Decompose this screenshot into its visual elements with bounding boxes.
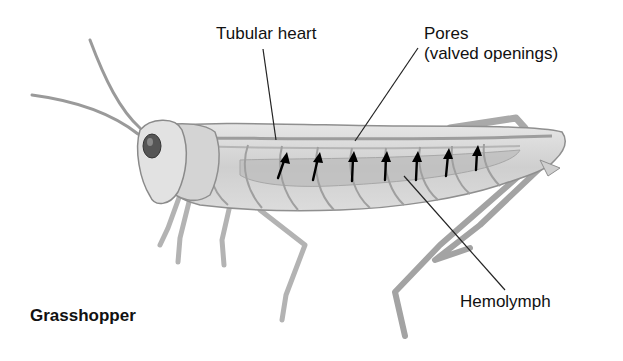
grasshopper-circulatory-diagram: Tubular heart Pores (valved openings) He… — [0, 0, 623, 361]
label-hemolymph: Hemolymph — [460, 292, 551, 312]
label-tubular-heart: Tubular heart — [216, 24, 316, 44]
label-pores-detail: (valved openings) — [424, 44, 558, 64]
antennae — [32, 40, 140, 134]
figure-title: Grasshopper — [30, 306, 136, 326]
label-pores: Pores — [424, 24, 468, 44]
head — [138, 120, 187, 203]
compound-eye — [143, 134, 161, 158]
legs — [160, 195, 305, 320]
